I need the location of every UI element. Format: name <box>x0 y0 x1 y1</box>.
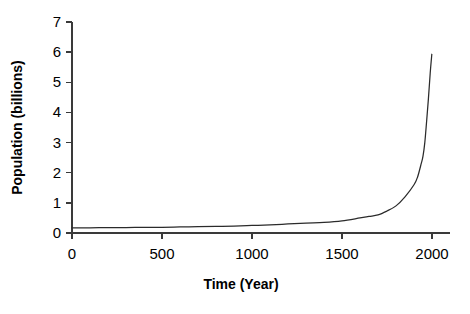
population-curve <box>72 54 432 228</box>
y-axis-tick-labels: 01234567 <box>53 13 61 241</box>
x-axis-title: Time (Year) <box>203 276 278 292</box>
y-tick-label: 5 <box>53 73 61 90</box>
x-tick-label: 0 <box>68 245 76 262</box>
y-axis-title: Population (billions) <box>9 60 25 195</box>
x-axis-tick-labels: 0500100015002000 <box>68 245 449 262</box>
x-axis-ticks <box>72 233 432 239</box>
y-tick-label: 2 <box>53 164 61 181</box>
x-tick-label: 1500 <box>325 245 358 262</box>
y-tick-label: 1 <box>53 194 61 211</box>
chart-canvas: 01234567 0500100015002000 Time (Year) Po… <box>0 0 470 314</box>
x-tick-label: 2000 <box>415 245 448 262</box>
y-tick-label: 6 <box>53 43 61 60</box>
x-tick-label: 1000 <box>235 245 268 262</box>
y-tick-label: 0 <box>53 224 61 241</box>
population-growth-chart: 01234567 0500100015002000 Time (Year) Po… <box>0 0 470 314</box>
y-tick-label: 3 <box>53 134 61 151</box>
y-axis-ticks <box>66 22 72 233</box>
y-tick-label: 7 <box>53 13 61 30</box>
y-tick-label: 4 <box>53 103 61 120</box>
x-tick-label: 500 <box>149 245 174 262</box>
